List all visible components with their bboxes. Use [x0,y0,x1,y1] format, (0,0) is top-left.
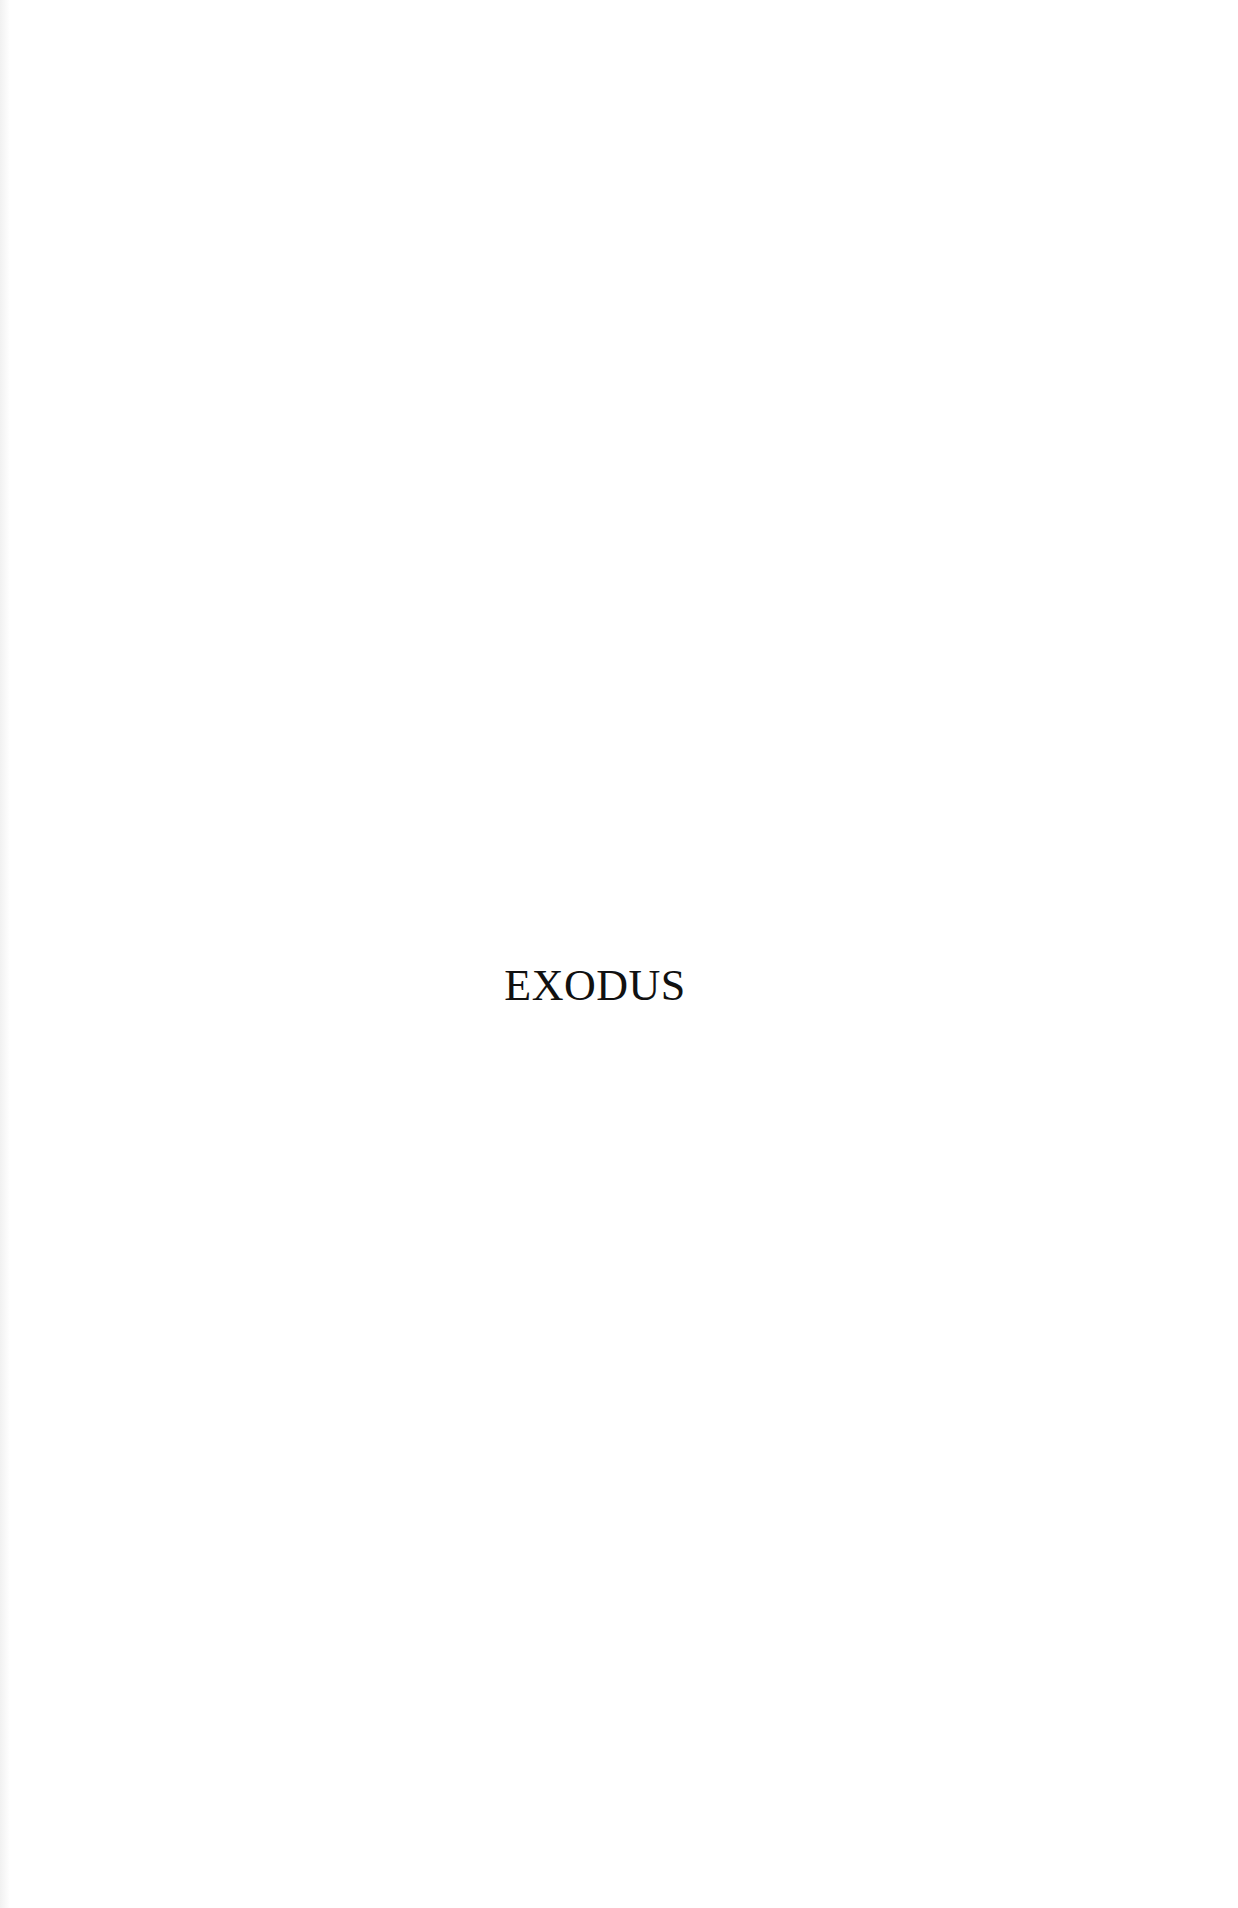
section-title: EXODUS [0,962,1190,1010]
book-page: EXODUS [0,0,1238,1908]
page-edge-shadow [0,0,10,1908]
